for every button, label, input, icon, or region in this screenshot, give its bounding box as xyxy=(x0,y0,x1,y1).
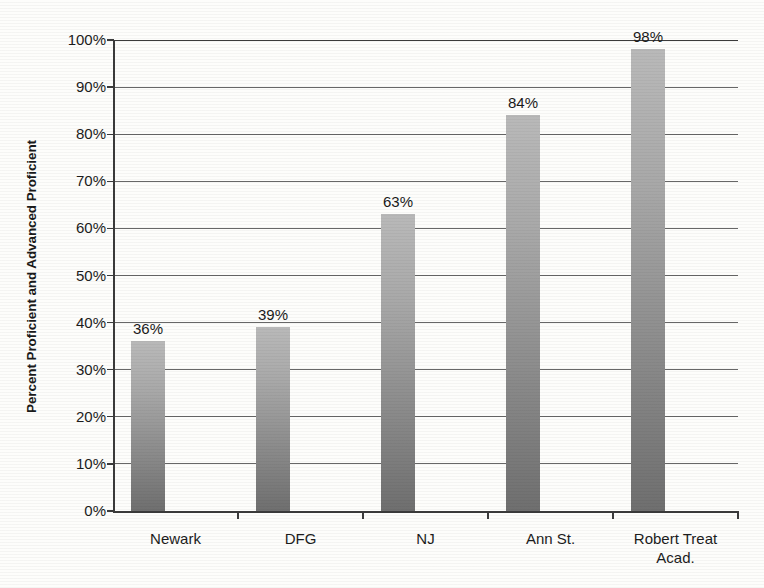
y-axis-tick-label: 0% xyxy=(44,502,106,519)
bar-chart-figure: Percent Proficient and Advanced Proficie… xyxy=(0,0,764,588)
x-axis-category-label: Robert TreatAcad. xyxy=(614,529,738,567)
y-axis-tick-label: 90% xyxy=(44,78,106,95)
y-axis-line xyxy=(113,40,115,511)
y-axis-tick-label: 70% xyxy=(44,172,106,189)
bar-value-label: 84% xyxy=(483,94,563,111)
x-axis-line xyxy=(113,511,738,513)
bar-value-label: 98% xyxy=(608,28,688,45)
x-axis-category-label-line2: Acad. xyxy=(614,548,738,567)
y-axis-title-text: Percent Proficient and Advanced Proficie… xyxy=(24,140,39,413)
y-axis-title: Percent Proficient and Advanced Proficie… xyxy=(18,40,44,512)
bar xyxy=(256,327,290,511)
plot-area: 36%39%63%84%98% xyxy=(113,40,738,511)
y-axis-tick-label: 80% xyxy=(44,125,106,142)
bar-value-label: 39% xyxy=(233,306,313,323)
y-axis-tick-label: 100% xyxy=(44,31,106,48)
y-axis-tick-label: 20% xyxy=(44,408,106,425)
x-axis-category-label: Newark xyxy=(114,529,238,548)
bar xyxy=(381,214,415,511)
bar xyxy=(131,341,165,511)
bar xyxy=(631,49,665,511)
bar xyxy=(506,115,540,511)
y-axis-tick-label: 10% xyxy=(44,455,106,472)
x-axis-category-label: Ann St. xyxy=(489,529,613,548)
bar-value-label: 63% xyxy=(358,193,438,210)
y-axis-tick-label: 40% xyxy=(44,314,106,331)
x-axis-category-label: NJ xyxy=(364,529,488,548)
bar-value-label: 36% xyxy=(108,320,188,337)
y-axis-tick-label: 30% xyxy=(44,361,106,378)
y-axis-tick-label: 60% xyxy=(44,219,106,236)
y-axis-tick-label: 50% xyxy=(44,267,106,284)
x-axis-category-label: DFG xyxy=(239,529,363,548)
